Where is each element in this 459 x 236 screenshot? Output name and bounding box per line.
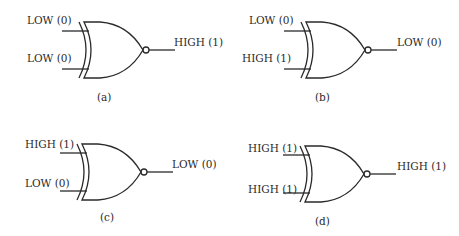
- panel-caption: (d): [315, 215, 330, 227]
- panel-c: HIGH (1) LOW (0) LOW (0) (c): [25, 138, 217, 223]
- input-a-label: HIGH (1): [248, 142, 297, 154]
- panel-caption: (a): [97, 91, 111, 103]
- panel-caption: (c): [100, 211, 114, 223]
- xnor-gate-icon: [62, 22, 175, 78]
- output-label: HIGH (1): [397, 160, 446, 172]
- input-b-label: LOW (0): [25, 177, 70, 189]
- xnor-diagram: LOW (0) LOW (0) HIGH (1) (a) LOW (0) HIG…: [0, 0, 459, 236]
- input-b-label: LOW (0): [27, 52, 72, 64]
- xnor-gate-icon: [284, 22, 397, 78]
- input-b-label: HIGH (1): [248, 183, 297, 195]
- input-a-label: LOW (0): [27, 14, 72, 26]
- output-label: LOW (0): [172, 158, 217, 170]
- xnor-gate-icon: [60, 144, 173, 200]
- input-a-label: LOW (0): [249, 14, 294, 26]
- panel-d: HIGH (1) HIGH (1) HIGH (1) (d): [248, 142, 446, 227]
- output-label: HIGH (1): [174, 36, 223, 48]
- panel-a: LOW (0) LOW (0) HIGH (1) (a): [27, 14, 223, 103]
- panel-caption: (b): [315, 91, 330, 103]
- input-a-label: HIGH (1): [25, 138, 74, 150]
- output-label: LOW (0): [397, 36, 442, 48]
- input-b-label: HIGH (1): [242, 52, 291, 64]
- panel-b: LOW (0) HIGH (1) LOW (0) (b): [242, 14, 442, 103]
- xnor-gate-icon: [283, 146, 396, 202]
